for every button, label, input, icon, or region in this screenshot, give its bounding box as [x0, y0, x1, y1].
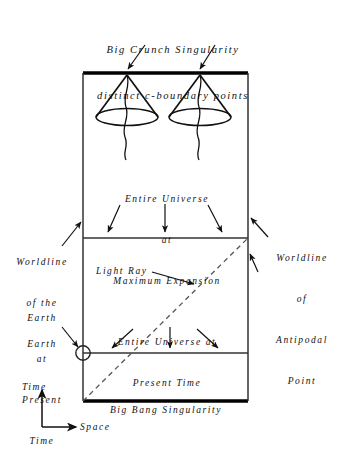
label-light-ray: Light Ray — [96, 265, 170, 279]
caption-big-crunch-line1: Big Crunch Singularity — [55, 42, 291, 57]
label-maximum-expansion: Entire Universe at Maximum Expansion — [86, 165, 248, 316]
label-earth-present-line4: Time — [2, 435, 82, 449]
arrow-worldline-antipodal-lower — [250, 254, 258, 272]
label-maximum-expansion-line1: Entire Universe — [86, 193, 248, 207]
label-worldline-antipodal-line3: Antipodal — [258, 334, 346, 348]
label-time-axis: Time — [22, 381, 68, 395]
label-entire-universe-present-time: Entire Universe at Present Time — [92, 308, 242, 418]
label-worldline-antipodal-line2: of — [258, 293, 346, 307]
label-universe-present-line1: Entire Universe at — [92, 336, 242, 350]
label-earth-present-line2: at — [2, 353, 82, 367]
label-earth-present-line3: Present — [2, 394, 82, 408]
label-maximum-expansion-line2: at — [86, 234, 248, 248]
caption-big-crunch-line2: distinct c-boundary points — [55, 88, 291, 103]
label-worldline-of-antipodal-point: Worldline of Antipodal Point — [258, 224, 346, 417]
figure-canvas: Big Crunch Singularity distinct c-bounda… — [0, 0, 346, 457]
label-universe-present-line2: Present Time — [92, 377, 242, 391]
label-space-axis: Space — [80, 421, 130, 435]
label-worldline-antipodal-line4: Point — [258, 375, 346, 389]
caption-big-crunch: Big Crunch Singularity distinct c-bounda… — [55, 12, 291, 134]
label-earth-at-present-time: Earth at Present Time — [2, 284, 82, 457]
label-big-bang-singularity: Big Bang Singularity — [82, 404, 250, 418]
label-worldline-earth-line1: Worldline — [2, 256, 82, 270]
label-worldline-antipodal-line1: Worldline — [258, 252, 346, 266]
label-earth-present-line1: Earth — [2, 312, 82, 326]
